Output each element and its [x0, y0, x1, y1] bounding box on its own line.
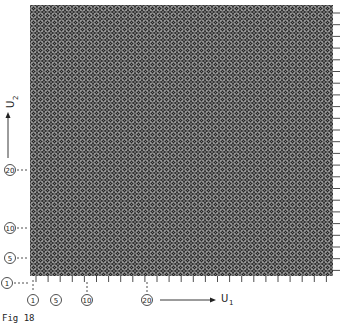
svg-text:5: 5: [8, 255, 12, 263]
x-axis-title: U: [221, 293, 228, 304]
x-label-1: 1: [28, 280, 39, 306]
svg-text:20: 20: [6, 167, 15, 175]
y-axis-title-sub: 2: [12, 96, 20, 100]
right-ticks: [333, 13, 340, 270]
figure-canvas: 20 10 5 1 1 5: [0, 0, 343, 325]
x-label-20: 20: [142, 282, 153, 306]
svg-text:20: 20: [143, 297, 152, 305]
x-axis-labels: 1 5 10 20: [28, 280, 153, 306]
x-axis-title-sub: 1: [229, 299, 233, 307]
mesh-grid: [30, 5, 333, 276]
svg-text:1: 1: [31, 297, 35, 305]
figure-caption: Fig 18: [2, 313, 35, 323]
bottom-ticks: [36, 276, 326, 282]
y-axis-title: U: [5, 101, 16, 108]
y-axis-labels: 20 10 5 1: [2, 165, 29, 289]
y-label-1: 1: [2, 278, 29, 289]
svg-text:10: 10: [6, 225, 15, 233]
y-axis-arrow: U 2: [5, 96, 20, 158]
y-label-10: 10: [5, 223, 29, 234]
x-label-10: 10: [82, 282, 93, 306]
svg-text:5: 5: [54, 297, 58, 305]
svg-text:1: 1: [5, 280, 9, 288]
y-label-5: 5: [5, 253, 29, 264]
x-label-5: 5: [51, 280, 62, 306]
svg-text:10: 10: [83, 297, 92, 305]
x-axis-arrow: U 1: [160, 293, 233, 307]
y-label-20: 20: [5, 165, 29, 176]
